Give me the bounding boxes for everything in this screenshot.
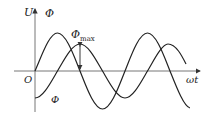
waveform-diagram: U Φ O ωt Φmax Φ	[0, 0, 211, 130]
origin-label: O	[24, 74, 32, 85]
phi-curve-label: Φ	[51, 94, 59, 105]
phi-max-label: Φmax	[71, 28, 95, 43]
y-label-phi: Φ	[45, 7, 54, 20]
phi-max-subscript: max	[80, 35, 95, 43]
x-label: ωt	[186, 74, 199, 85]
y-label-u: U	[24, 6, 34, 19]
